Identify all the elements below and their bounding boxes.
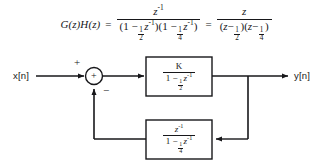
output-signal-label: y[n] [294,70,310,81]
forward-block-rect [146,57,212,96]
feedback-sign-minus-label: − [103,85,109,96]
fraction2-numerator: z [239,6,249,19]
equation-row: G(z)H(z) = z-1 (1 −12z-1)(1 −14z-1) = z … [60,6,271,42]
fraction1-den-term1-minus: − [131,20,137,32]
equation-equals-second: = [203,19,213,30]
fraction1-numerator-exponent: -1 [158,3,164,12]
fraction1-denominator: (1 −12z-1)(1 −14z-1) [117,20,201,43]
fraction1-den-term2-close: ) [194,20,198,32]
input-signal-label: x[n] [13,70,29,81]
equation-fraction-z-form: z (z−12)(z−14) [217,6,272,42]
fraction1-den-term2-coef-num: 1 [177,27,183,34]
transfer-function-equation: G(z)H(z) = z-1 (1 −12z-1)(1 −14z-1) = z … [0,6,332,42]
equation-equals-first: = [103,19,113,30]
fraction2-denominator: (z−12)(z−14) [217,20,272,43]
block-diagram-canvas [0,40,332,168]
block-diagram: + + − x[n] y[n] K 1 −12z-1 z-1 1 −14z-1 [0,40,332,168]
equation-fraction-z-inverse-form: z-1 (1 −12z-1)(1 −14z-1) [117,6,201,42]
summing-junction-plus-icon: + [91,71,97,81]
fraction2-den-term2-minus: − [252,20,258,32]
figure-root: G(z)H(z) = z-1 (1 −12z-1)(1 −14z-1) = z … [0,0,332,168]
fraction2-den-term2-close: ) [265,20,269,32]
input-sign-plus-label: + [74,57,80,68]
fraction1-den-term2-open: (1 [158,20,170,32]
fraction2-den-term2-value-num: 1 [259,27,265,34]
fraction1-numerator: z-1 [150,6,167,19]
fraction1-den-term1-coef-num: 1 [138,27,144,34]
fraction2-den-term1-minus: − [228,20,234,32]
fraction1-den-term1-open: (1 [120,20,132,32]
fraction1-den-term2-minus: − [170,20,176,32]
equation-lhs: G(z)H(z) [60,19,100,30]
feedback-block-rect [146,120,212,159]
fraction2-numerator-variable: z [242,5,246,17]
